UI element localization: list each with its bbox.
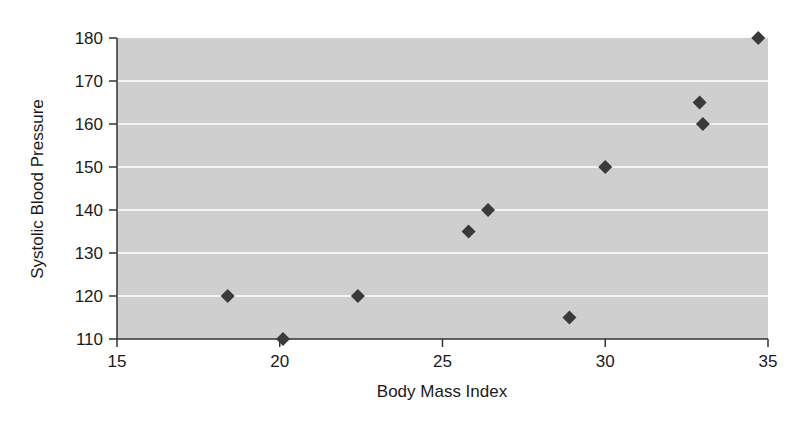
x-tick-label: 15 <box>108 352 127 371</box>
x-tick-label: 25 <box>433 352 452 371</box>
y-tick-label: 170 <box>75 72 103 91</box>
y-tick-label: 140 <box>75 201 103 220</box>
y-tick-label: 120 <box>75 287 103 306</box>
y-tick-label: 110 <box>76 330 103 349</box>
x-tick-label: 30 <box>596 352 615 371</box>
scatter-chart: 110120130140150160170180 1520253035 Body… <box>0 0 800 421</box>
plot-area <box>117 38 768 339</box>
y-tick-label: 180 <box>75 29 103 48</box>
x-axis-ticks: 1520253035 <box>108 339 778 371</box>
x-tick-label: 35 <box>759 352 778 371</box>
y-axis-label: Systolic Blood Pressure <box>28 99 47 279</box>
y-tick-label: 160 <box>75 115 103 134</box>
y-tick-label: 150 <box>75 158 103 177</box>
y-tick-label: 130 <box>75 244 103 263</box>
y-axis-ticks: 110120130140150160170180 <box>75 29 117 349</box>
x-tick-label: 20 <box>270 352 289 371</box>
x-axis-label: Body Mass Index <box>377 382 508 401</box>
